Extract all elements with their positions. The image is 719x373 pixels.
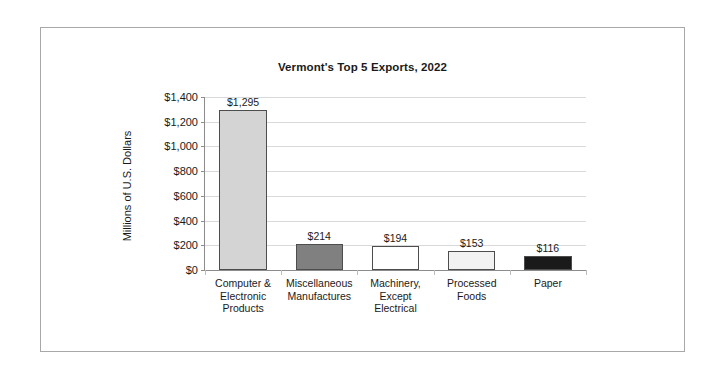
- bar-slot: $214MiscellaneousManufactures: [281, 97, 357, 270]
- x-axis-category-label-line: Paper: [502, 277, 593, 290]
- category-divider: [205, 270, 206, 275]
- bar-slot: $1,295Computer &ElectronicProducts: [205, 97, 281, 270]
- x-axis-category-label-line: Electrical: [350, 302, 441, 315]
- bar[interactable]: [219, 110, 266, 270]
- bar-value-label: $116: [510, 242, 586, 254]
- plot-area: $1,400$1,200$1,000$800$600$400$200$0 $1,…: [204, 97, 586, 271]
- category-divider: [586, 270, 587, 275]
- bar-value-label: $214: [281, 230, 357, 242]
- bar-value-label: $153: [434, 237, 510, 249]
- x-axis-category-label: Paper: [502, 277, 593, 290]
- gridline: [205, 270, 586, 271]
- bar-value-label: $194: [357, 232, 433, 244]
- bar[interactable]: [296, 244, 343, 270]
- y-axis-tick-label: $200: [174, 239, 198, 251]
- x-axis-category-label-line: Foods: [426, 290, 517, 303]
- y-axis-tick-label: $1,400: [164, 91, 198, 103]
- y-axis-tick-label: $1,000: [164, 140, 198, 152]
- bar-slot: $194Machinery,ExceptElectrical: [357, 97, 433, 270]
- category-divider: [281, 270, 282, 275]
- category-divider: [510, 270, 511, 275]
- category-divider: [434, 270, 435, 275]
- y-axis-tick-label: $600: [174, 190, 198, 202]
- bar-value-label: $1,295: [205, 96, 281, 108]
- chart-figure-frame: Vermont's Top 5 Exports, 2022 Millions o…: [40, 27, 685, 352]
- bar-slot: $153ProcessedFoods: [434, 97, 510, 270]
- bar[interactable]: [524, 256, 571, 270]
- y-axis-tick-label: $0: [186, 264, 198, 276]
- chart-title: Vermont's Top 5 Exports, 2022: [41, 61, 684, 73]
- bar-slot: $116Paper: [510, 97, 586, 270]
- x-axis-category-label-line: Products: [197, 302, 288, 315]
- bar[interactable]: [372, 246, 419, 270]
- y-axis-tick-label: $400: [174, 215, 198, 227]
- y-axis-tick-label: $1,200: [164, 116, 198, 128]
- y-axis-title: Millions of U.S. Dollars: [121, 96, 137, 276]
- bar[interactable]: [448, 251, 495, 270]
- category-divider: [357, 270, 358, 275]
- y-axis-tick-label: $800: [174, 165, 198, 177]
